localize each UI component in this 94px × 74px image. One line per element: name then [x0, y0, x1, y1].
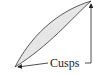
cusps-label: Cusps [50, 56, 80, 70]
cusps-diagram: Cusps [0, 0, 94, 74]
arrow-to-top-cusp [85, 4, 91, 63]
arrow-to-bottom-cusp [18, 63, 48, 67]
